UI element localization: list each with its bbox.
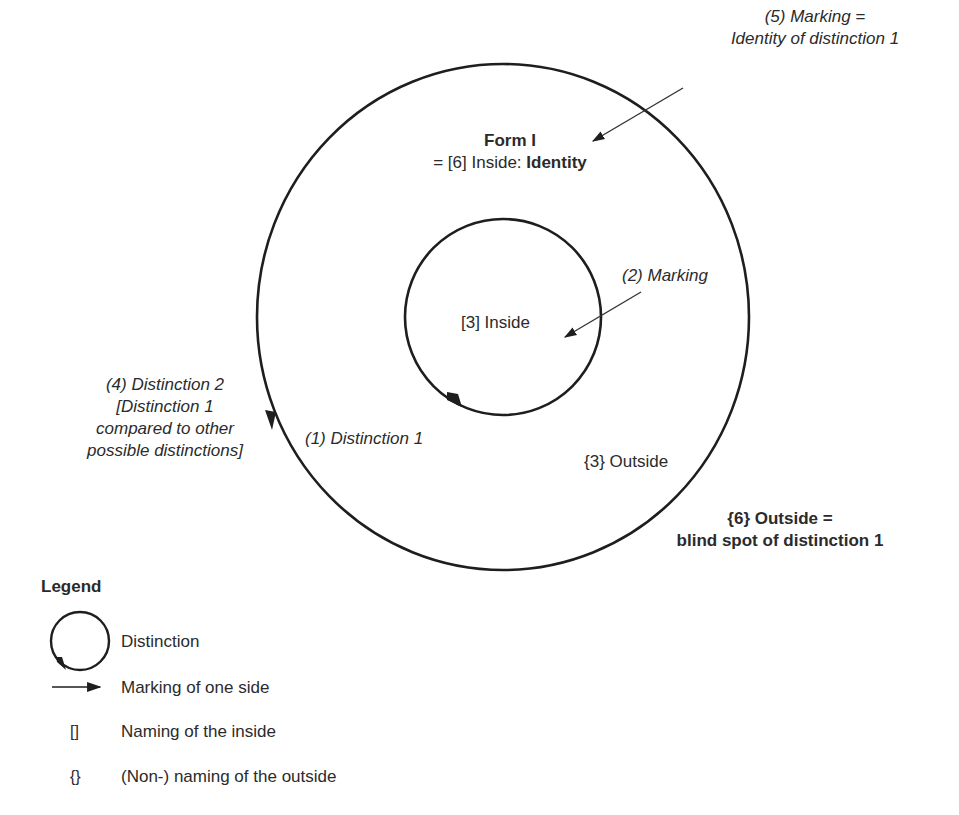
label-marking: (2) Marking (622, 265, 708, 287)
label-blind-spot: {6} Outside = blind spot of distinction … (650, 508, 910, 552)
label-distinction-2-line2: [Distinction 1 (40, 396, 290, 418)
label-blind-spot-line2: blind spot of distinction 1 (650, 530, 910, 552)
legend-title: Legend (41, 577, 101, 597)
legend-item-naming-outside: (Non-) naming of the outside (121, 767, 336, 787)
form-title: Form I (400, 130, 620, 152)
legend-item-marking: Marking of one side (121, 678, 269, 698)
form-subtitle-prefix: = [6] Inside: (433, 153, 526, 172)
legend-item-naming-inside: Naming of the inside (121, 722, 276, 742)
legend-circle-arrowhead-icon (56, 657, 66, 670)
label-distinction-2-line1: (4) Distinction 2 (40, 374, 290, 396)
form-subtitle-identity: Identity (526, 153, 586, 172)
label-marking-identity-line1: (5) Marking = (700, 6, 930, 28)
legend-brace-symbol: {} (70, 768, 81, 786)
label-distinction-2-line4: possible distinctions] (40, 440, 290, 462)
label-blind-spot-line1: {6} Outside = (650, 508, 910, 530)
label-marking-identity-line2: Identity of distinction 1 (700, 28, 930, 50)
label-outside: {3} Outside (584, 451, 668, 473)
label-distinction-2: (4) Distinction 2 [Distinction 1 compare… (40, 374, 290, 462)
form-subtitle: = [6] Inside: Identity (400, 152, 620, 174)
form-title-block: Form I = [6] Inside: Identity (400, 130, 620, 174)
marking-arrow (565, 292, 641, 337)
label-marking-identity: (5) Marking = Identity of distinction 1 (700, 6, 930, 50)
label-inside: [3] Inside (461, 312, 530, 334)
legend-item-distinction: Distinction (121, 632, 199, 652)
legend-bracket-symbol: [] (70, 723, 79, 741)
label-distinction-2-line3: compared to other (40, 418, 290, 440)
label-distinction-1: (1) Distinction 1 (305, 428, 423, 450)
inner-circle-arrowhead-icon (447, 392, 462, 407)
